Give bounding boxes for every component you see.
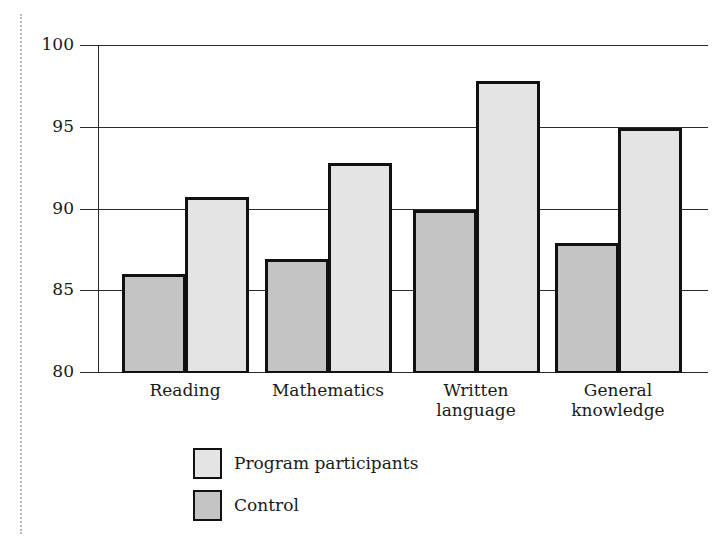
legend-label: Program participants <box>234 453 418 473</box>
chart-legend: Program participants Control <box>193 442 418 526</box>
y-axis <box>98 45 99 372</box>
y-tick-label: 90 <box>24 198 74 218</box>
x-category-label: Mathematics <box>248 380 408 400</box>
bar-participant <box>185 197 249 373</box>
y-tick-label: 80 <box>24 361 74 381</box>
bar-participant <box>476 81 540 373</box>
y-tick-label: 85 <box>24 279 74 299</box>
legend-swatch-participants <box>193 448 222 479</box>
bar-control <box>122 274 186 373</box>
legend-item-control: Control <box>193 484 418 526</box>
bar-participant <box>618 128 682 373</box>
x-category-label: Reading <box>105 380 265 400</box>
bar-control <box>413 210 477 373</box>
x-category-label: General knowledge <box>538 380 698 420</box>
x-category-label: Written language <box>396 380 556 420</box>
y-tick-label: 95 <box>24 116 74 136</box>
gridline-100 <box>80 45 708 46</box>
legend-item-participants: Program participants <box>193 442 418 484</box>
bar-control <box>555 243 619 373</box>
gridline-90 <box>80 209 708 210</box>
y-tick-label: 100 <box>24 34 74 54</box>
gridline-95 <box>80 127 708 128</box>
bar-control <box>265 259 329 373</box>
bar-participant <box>328 163 392 373</box>
legend-swatch-control <box>193 490 222 521</box>
legend-label: Control <box>234 495 299 515</box>
